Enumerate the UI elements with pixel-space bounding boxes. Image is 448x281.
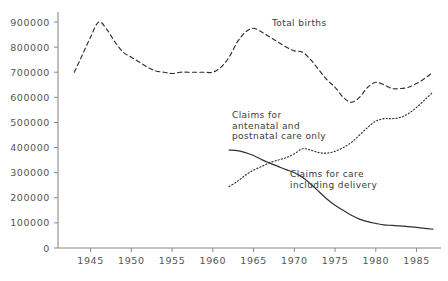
y-tick-label: 200000: [10, 192, 50, 203]
x-axis: 194519501955196019651970197519801985: [58, 248, 441, 266]
x-axis-ticks: 194519501955196019651970197519801985: [77, 248, 430, 266]
y-axis-ticks: 0100000200000300000400000500000600000700…: [10, 17, 58, 254]
y-tick-label: 0: [43, 243, 50, 254]
x-tick-label: 1975: [322, 255, 349, 266]
annotation-total-births: Total births: [272, 18, 327, 29]
x-tick-label: 1950: [118, 255, 145, 266]
y-axis: 0100000200000300000400000500000600000700…: [10, 12, 58, 254]
y-tick-label: 700000: [10, 67, 50, 78]
y-tick-label: 100000: [10, 217, 50, 228]
annotation-care-including-delivery: Claims for care including delivery: [290, 169, 377, 190]
x-tick-label: 1965: [240, 255, 267, 266]
series-total-births: [74, 22, 433, 103]
x-tick-label: 1970: [281, 255, 308, 266]
x-tick-label: 1980: [363, 255, 390, 266]
y-tick-label: 900000: [10, 17, 50, 28]
annotation-antenatal-postnatal: Claims for antenatal and postnatal care …: [232, 110, 326, 142]
x-tick-label: 1960: [200, 255, 227, 266]
birth-claims-line-chart: 0100000200000300000400000500000600000700…: [0, 0, 448, 281]
y-tick-label: 800000: [10, 42, 50, 53]
x-tick-label: 1985: [403, 255, 430, 266]
x-tick-label: 1955: [159, 255, 186, 266]
chart-plot-area: 0100000200000300000400000500000600000700…: [0, 0, 448, 281]
y-tick-label: 500000: [10, 117, 50, 128]
y-tick-label: 400000: [10, 142, 50, 153]
x-tick-label: 1945: [77, 255, 104, 266]
y-tick-label: 600000: [10, 92, 50, 103]
y-tick-label: 300000: [10, 167, 50, 178]
